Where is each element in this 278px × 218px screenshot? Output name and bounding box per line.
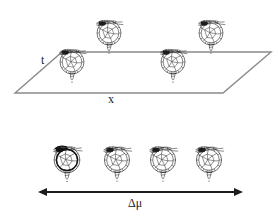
specimen-upper-2	[96, 20, 123, 53]
figure-root: t x Δμ	[0, 0, 278, 218]
axis-label-delta-mu: Δμ	[128, 197, 142, 209]
upper-panel	[0, 0, 278, 218]
specimen-upper-1	[59, 49, 86, 82]
specimen-lower-2	[104, 147, 133, 182]
specimen-upper-4	[198, 20, 225, 53]
xt-plane	[15, 52, 271, 93]
axis-label-x: x	[108, 93, 114, 105]
specimen-lower-3	[150, 147, 179, 182]
axis-label-t: t	[41, 54, 44, 66]
specimen-lower-4	[196, 147, 225, 182]
specimen-lower-1	[53, 146, 82, 182]
specimen-upper-3	[160, 49, 187, 82]
